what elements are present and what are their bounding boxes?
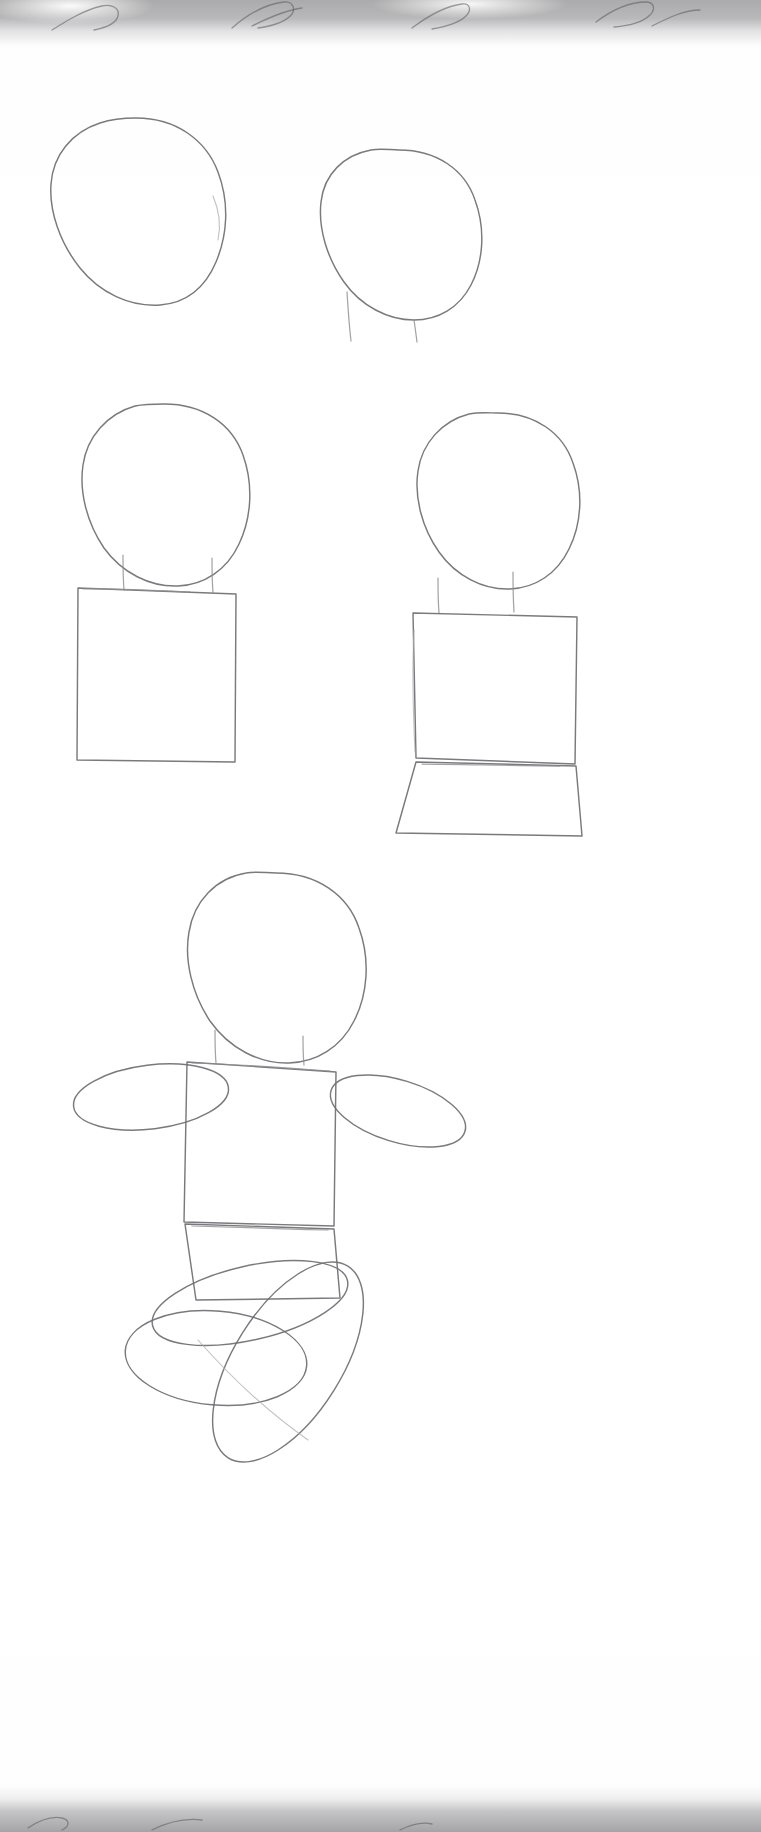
- arm-ellipse-right: [322, 1061, 474, 1161]
- head-oval-1: [51, 118, 226, 305]
- step-5-full-seated-figure: [70, 872, 474, 1486]
- leg-inner-contour: [198, 1340, 308, 1440]
- sketch-page: Step 1 - head oval Step 2 - head with ne…: [0, 0, 761, 1832]
- neck-line-left-3: [123, 555, 124, 590]
- head-oval-2: [320, 149, 481, 320]
- head-oval-5: [188, 872, 367, 1063]
- head-oval-1-sketch-overlap: [213, 196, 219, 240]
- head-oval-4: [417, 413, 580, 589]
- step-4-torso-and-hips: [396, 413, 582, 836]
- neck-line-left-2: [347, 292, 351, 341]
- bottom-sketch-3: [400, 1823, 432, 1830]
- neck-line-left-5: [215, 1030, 216, 1063]
- hand-sketch-4: [412, 4, 469, 29]
- torso-rectangle-4: [413, 613, 577, 764]
- neck-line-right-5: [303, 1036, 304, 1065]
- thigh-ellipse-crossed: [144, 1244, 356, 1361]
- hand-sketch-5: [596, 2, 653, 27]
- bottom-sketch-1: [28, 1817, 68, 1830]
- neck-line-right-2: [414, 320, 417, 342]
- step-3-head-neck-torso: [77, 404, 250, 762]
- head-oval-3: [82, 404, 250, 586]
- neck-line-left-4: [513, 572, 514, 612]
- arm-ellipse-left: [70, 1056, 233, 1139]
- step-1-head-oval: [51, 118, 226, 305]
- hips-trapezoid-4: [396, 762, 582, 836]
- drawing-canvas: [0, 0, 761, 1832]
- torso-rectangle-5: [184, 1062, 336, 1226]
- step-2-head-and-neck: [320, 149, 481, 342]
- hand-sketch-2: [232, 2, 294, 28]
- torso-rectangle-3: [77, 588, 236, 762]
- hand-sketch-6: [652, 10, 700, 26]
- top-band-hand-sketches: [0, 0, 761, 46]
- bottom-sketch-2: [152, 1819, 202, 1830]
- bottom-band-sketches: [0, 1786, 761, 1832]
- neck-line-right-4: [438, 578, 439, 613]
- hand-sketch-1: [52, 5, 118, 30]
